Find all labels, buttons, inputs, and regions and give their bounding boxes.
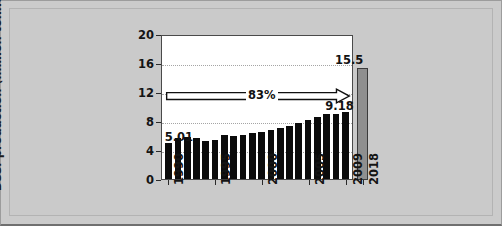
bar	[258, 132, 265, 179]
bar-slot	[257, 36, 266, 179]
y-tick-mark	[156, 180, 161, 181]
y-tick-label: 16	[128, 57, 154, 71]
y-tick-label: 0	[128, 173, 154, 187]
bar	[286, 126, 293, 179]
bar-slot	[285, 36, 294, 179]
x-tick-mark	[363, 180, 364, 185]
bar-slot	[238, 36, 247, 179]
bar-slot	[303, 36, 312, 179]
bar-slot	[201, 36, 210, 179]
value-label: 5.01	[165, 130, 193, 144]
y-tick-mark	[156, 122, 161, 123]
bar	[333, 114, 340, 179]
y-tick-mark	[156, 151, 161, 152]
growth-arrow-label: 83%	[246, 88, 278, 102]
y-tick-mark	[156, 64, 161, 65]
x-tick-mark	[168, 180, 169, 185]
x-tick-label: 1995	[219, 153, 233, 185]
y-axis-title: Beef production (million tonnes)	[0, 21, 12, 191]
bar	[212, 140, 219, 179]
bar-slot	[248, 36, 257, 179]
bar	[249, 133, 256, 179]
value-label: 15.5	[335, 53, 363, 67]
bar	[202, 141, 209, 179]
y-tick-label: 4	[128, 144, 154, 158]
x-tick-mark	[346, 180, 347, 185]
bar	[342, 112, 349, 179]
x-tick-label: 2000	[266, 153, 280, 185]
x-tick-label: 1990	[172, 153, 186, 185]
x-tick-label: 2018	[367, 153, 381, 185]
x-tick-mark	[215, 180, 216, 185]
y-tick-label: 20	[128, 28, 154, 42]
bar	[240, 135, 247, 179]
x-tick-label: 2005	[313, 153, 327, 185]
x-tick-mark	[262, 180, 263, 185]
figure-container: Beef production (million tonnes) 5.019.1…	[0, 0, 502, 226]
bar-slot	[192, 36, 201, 179]
bar	[193, 138, 200, 179]
bar	[295, 123, 302, 179]
bar	[165, 143, 172, 179]
y-tick-label: 8	[128, 115, 154, 129]
y-tick-mark	[156, 93, 161, 94]
y-tick-mark	[156, 35, 161, 36]
bar-slot	[294, 36, 303, 179]
y-tick-label: 12	[128, 86, 154, 100]
x-tick-mark	[309, 180, 310, 185]
bar	[305, 120, 312, 179]
value-label: 9.18	[325, 99, 353, 113]
